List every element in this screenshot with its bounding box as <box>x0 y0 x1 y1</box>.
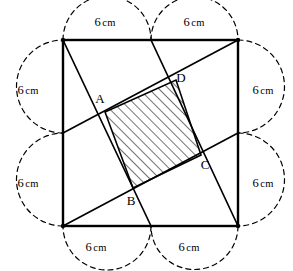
dimension-label-left-top: 6cm <box>17 83 38 98</box>
dimension-value: 6 <box>252 83 258 97</box>
corner-dot-topright <box>236 38 240 42</box>
shaded-quadrilateral <box>105 80 201 188</box>
dimension-label-right-top: 6cm <box>252 83 273 98</box>
dimension-value: 6 <box>85 240 91 254</box>
dimension-unit: cm <box>25 178 38 189</box>
dimension-label-top-left: 6cm <box>94 15 115 30</box>
dimension-value: 6 <box>94 15 100 29</box>
dimension-label-left-bottom: 6cm <box>17 176 38 191</box>
arc-bottom-left <box>63 226 151 270</box>
dimension-label-bottom-left: 6cm <box>85 240 106 255</box>
dimension-label-bottom-right: 6cm <box>178 240 199 255</box>
dimension-unit: cm <box>260 85 273 96</box>
vertex-label-c: C <box>201 157 210 173</box>
dimension-unit: cm <box>186 242 199 253</box>
dimension-unit: cm <box>260 178 273 189</box>
vertex-label-a: A <box>95 91 104 107</box>
dimension-value: 6 <box>178 240 184 254</box>
dimension-label-right-bottom: 6cm <box>252 176 273 191</box>
dimension-value: 6 <box>17 83 23 97</box>
dimension-unit: cm <box>25 85 38 96</box>
vertex-label-d: D <box>176 70 185 86</box>
corner-dot-bottomright <box>236 224 240 228</box>
geometry-figure: 6cm 6cm 6cm 6cm 6cm 6cm 6cm 6cm A B C D <box>0 0 293 271</box>
dimension-unit: cm <box>102 17 115 28</box>
vertex-label-b: B <box>127 193 136 209</box>
dimension-value: 6 <box>252 176 258 190</box>
corner-dot-topleft <box>61 38 65 42</box>
dimension-value: 6 <box>17 176 23 190</box>
dimension-label-top-right: 6cm <box>183 15 204 30</box>
geometry-canvas <box>0 0 293 271</box>
dimension-unit: cm <box>93 242 106 253</box>
dimension-value: 6 <box>183 15 189 29</box>
corner-dot-bottomleft <box>61 224 65 228</box>
dimension-unit: cm <box>191 17 204 28</box>
